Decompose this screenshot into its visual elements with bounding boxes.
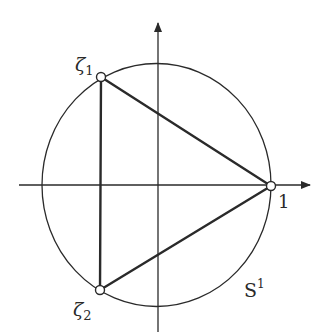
point-one xyxy=(267,182,276,191)
unit-circle-diagram: ζ1 1 ζ2 S1 xyxy=(0,0,326,333)
label-zeta1: ζ1 xyxy=(75,53,94,78)
point-zeta1 xyxy=(97,73,106,82)
point-zeta2 xyxy=(96,286,105,295)
label-s1: S1 xyxy=(244,277,265,301)
label-zeta2: ζ2 xyxy=(73,298,92,323)
label-one: 1 xyxy=(278,191,289,212)
